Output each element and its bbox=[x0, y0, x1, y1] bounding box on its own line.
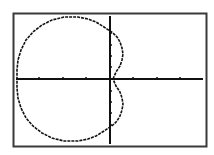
calculator-graph-screen bbox=[0, 0, 214, 155]
